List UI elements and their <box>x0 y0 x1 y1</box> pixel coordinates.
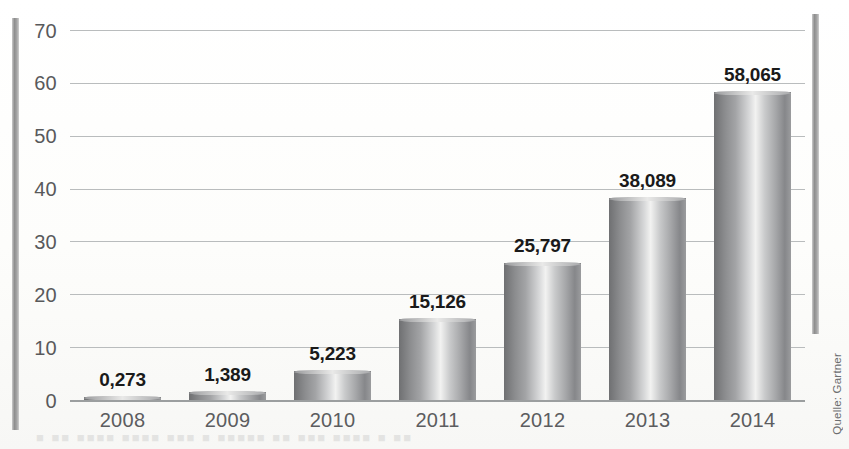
bar-value-label: 58,065 <box>724 64 781 86</box>
y-axis-tick-label: 60 <box>34 72 57 95</box>
page-edge-rule-left <box>12 18 19 430</box>
bar: 1,3892009 <box>189 392 266 400</box>
x-axis-tick-label: 2012 <box>520 409 566 432</box>
y-axis-tick-label: 20 <box>34 283 57 306</box>
bar-value-label: 25,797 <box>514 235 571 257</box>
bar: 15,1262011 <box>399 319 476 400</box>
gridline-0: 0 <box>70 400 805 402</box>
x-axis-tick-label: 2008 <box>100 409 146 432</box>
y-axis-tick-label: 0 <box>46 390 57 413</box>
plot-area: 706050403020100 0,27320081,38920095,2232… <box>70 30 805 400</box>
y-axis-tick-label: 70 <box>34 19 57 42</box>
bar-value-label: 15,126 <box>409 291 466 313</box>
gridline-60: 60 <box>70 83 805 84</box>
bar: 0,2732008 <box>84 397 161 400</box>
y-axis-tick-label: 40 <box>34 178 57 201</box>
gridline-30: 30 <box>70 241 805 242</box>
y-axis-tick-label: 30 <box>34 230 57 253</box>
gridline-70: 70 <box>70 30 805 31</box>
bar: 5,2232010 <box>294 371 371 400</box>
bar-value-label: 0,273 <box>99 369 146 391</box>
x-axis-tick-label: 2011 <box>415 409 459 432</box>
bar: 38,0892013 <box>609 198 686 400</box>
bar-top-ellipse <box>609 197 686 201</box>
gridline-40: 40 <box>70 189 805 190</box>
chart-screenshot: 706050403020100 0,27320081,38920095,2232… <box>0 0 849 449</box>
bar: 25,7972012 <box>504 263 581 400</box>
x-axis-tick-label: 2013 <box>625 409 671 432</box>
y-axis-tick-label: 50 <box>34 125 57 148</box>
gridline-50: 50 <box>70 136 805 137</box>
bar-top-ellipse <box>84 396 161 400</box>
x-axis-tick-label: 2009 <box>205 409 251 432</box>
x-axis-tick-label: 2014 <box>730 409 776 432</box>
bar: 58,0652014 <box>714 92 791 400</box>
y-axis-tick-label: 10 <box>34 336 57 359</box>
bar-value-label: 5,223 <box>309 343 356 365</box>
source-credit: Quelle: Gartner <box>831 353 843 435</box>
bar-top-ellipse <box>399 318 476 322</box>
bar-top-ellipse <box>189 391 266 395</box>
x-axis-tick-label: 2010 <box>310 409 356 432</box>
bar-value-label: 38,089 <box>619 170 676 192</box>
bar-top-ellipse <box>714 91 791 95</box>
bar-value-label: 1,389 <box>204 364 251 386</box>
bleed-through-text: ■ ■■ ■■■■ ■■■■ ■■■ ■ ■■■■■ ■■ ■■■ ■■■■ ■… <box>36 430 736 446</box>
bar-top-ellipse <box>294 370 371 374</box>
page-edge-rule-right <box>812 14 819 334</box>
bar-top-ellipse <box>504 262 581 266</box>
